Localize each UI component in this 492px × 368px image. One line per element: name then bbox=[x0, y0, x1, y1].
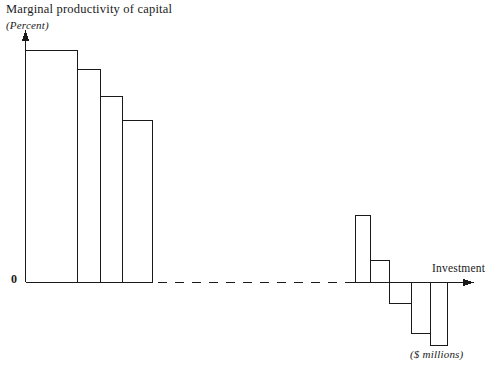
bar-7 bbox=[390, 283, 412, 304]
bar-5 bbox=[356, 216, 371, 283]
chart-canvas bbox=[0, 0, 492, 368]
bar-8 bbox=[412, 283, 431, 334]
x-axis-arrowhead bbox=[463, 279, 474, 286]
bar-6 bbox=[371, 261, 390, 283]
bar-2 bbox=[78, 70, 101, 283]
bar-4 bbox=[123, 121, 153, 283]
bar-1 bbox=[26, 51, 78, 283]
y-axis-arrowhead bbox=[22, 30, 29, 41]
bar-3 bbox=[101, 97, 123, 283]
bar-9 bbox=[431, 283, 448, 346]
chart-figure: Marginal productivity of capital (Percen… bbox=[0, 0, 492, 368]
